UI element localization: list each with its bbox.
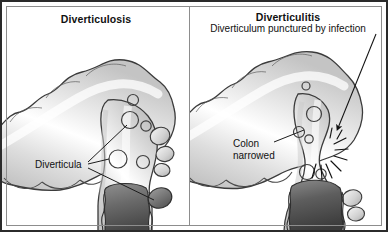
diverticulosis-illustration [2, 2, 190, 230]
panel-diverticulosis: Diverticulosis Diverticula [2, 2, 190, 230]
panel-right-title: Diverticulitis [190, 11, 386, 23]
panel-left-title: Diverticulosis [2, 13, 190, 25]
label-colon-narrowed: Colon narrowed [233, 138, 275, 161]
colon-transverse-right [190, 52, 363, 189]
panel-diverticulitis: Diverticulitis Diverticulum punctured by… [190, 2, 386, 230]
colon-lumen-cutaway-right [287, 180, 345, 230]
figure-diverticular-disease: Diverticulosis Diverticula [0, 0, 388, 232]
panel-right-subtitle: Diverticulum punctured by infection [190, 23, 386, 34]
diverticulitis-illustration [190, 2, 386, 230]
label-diverticula: Diverticula [35, 159, 82, 171]
diverticula-pouches-right [340, 187, 365, 221]
label-colon-narrowed-line2: narrowed [233, 150, 275, 162]
label-colon-narrowed-line1: Colon [233, 138, 275, 150]
colon-lumen-cutaway-left [102, 184, 175, 231]
diverticulum-pouch [153, 162, 171, 177]
panel-divider [189, 6, 190, 226]
diverticulum-pouch [347, 206, 365, 221]
